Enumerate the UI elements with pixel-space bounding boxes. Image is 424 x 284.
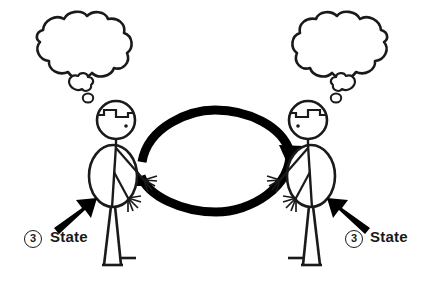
right-annotation-label: State xyxy=(370,228,408,245)
left-annotation-number: 3 xyxy=(24,230,42,248)
left-bubble-cloud xyxy=(37,12,132,78)
left-person-eye xyxy=(124,124,128,128)
left-bubble-trail-small xyxy=(83,93,93,102)
diagram-canvas: 3 State 3 State xyxy=(0,0,424,284)
left-annotation-label: State xyxy=(50,228,88,245)
right-bubble-trail-small xyxy=(331,93,341,102)
right-person-eye xyxy=(296,124,300,128)
right-person-head xyxy=(289,101,327,139)
right-bubble-cloud xyxy=(292,12,387,78)
right-annotation-number: 3 xyxy=(345,230,363,248)
left-person-head xyxy=(97,101,135,139)
